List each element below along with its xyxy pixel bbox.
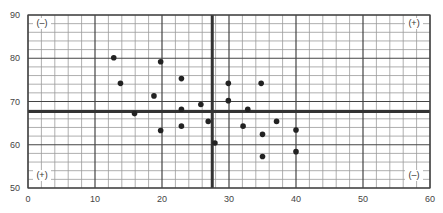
quadrant-label-top-right: (+) — [408, 18, 419, 28]
quadrant-label-top-left: (–) — [37, 18, 48, 28]
data-point — [205, 119, 211, 125]
quadrant-label-bottom-left: (+) — [36, 170, 47, 180]
y-axis-tick-labels: 5060708090 — [10, 10, 20, 193]
x-tick-label: 60 — [425, 194, 435, 204]
data-point — [258, 81, 264, 87]
y-tick-label: 80 — [10, 53, 20, 63]
data-point — [240, 123, 246, 129]
x-tick-label: 0 — [25, 194, 30, 204]
data-point — [212, 140, 218, 146]
data-point — [179, 76, 185, 82]
x-axis-tick-labels: 0102030405060 — [25, 194, 435, 204]
data-point — [158, 128, 164, 134]
data-point — [245, 106, 251, 112]
y-tick-label: 70 — [10, 97, 20, 107]
scatter-chart: 0102030405060 5060708090 (–)(+)(+)(–) — [0, 0, 443, 213]
y-tick-label: 50 — [10, 183, 20, 193]
quadrant-label-bottom-right: (–) — [409, 170, 420, 180]
data-points — [111, 55, 299, 159]
x-tick-label: 50 — [358, 194, 368, 204]
data-point — [226, 98, 232, 104]
data-point — [260, 132, 266, 138]
data-point — [132, 111, 138, 117]
y-tick-label: 60 — [10, 140, 20, 150]
data-point — [158, 59, 164, 65]
x-tick-label: 20 — [157, 194, 167, 204]
data-point — [179, 106, 185, 112]
data-point — [226, 81, 232, 87]
data-point — [274, 119, 280, 125]
data-point — [293, 127, 299, 133]
x-tick-label: 30 — [224, 194, 234, 204]
x-tick-label: 10 — [90, 194, 100, 204]
data-point — [198, 102, 204, 108]
data-point — [179, 123, 185, 129]
data-point — [293, 149, 299, 155]
data-point — [151, 93, 157, 99]
y-tick-label: 90 — [10, 10, 20, 20]
data-point — [111, 55, 117, 61]
data-point — [118, 81, 124, 87]
data-point — [260, 154, 266, 160]
x-tick-label: 40 — [291, 194, 301, 204]
